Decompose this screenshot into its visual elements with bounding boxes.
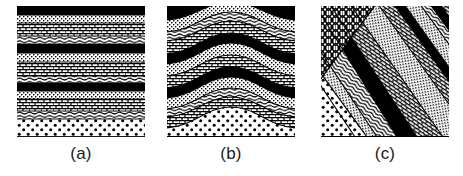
geological-cross-section-figure: (a) (b) (c)	[0, 0, 463, 176]
layer-wavy-1	[17, 36, 145, 44]
layer-wavy-3	[17, 111, 145, 119]
layer-stipple-3	[17, 91, 145, 99]
panel-c-svg	[321, 6, 449, 137]
panel-b-svg	[167, 6, 295, 137]
layer-brick-2	[17, 62, 145, 76]
layer-stipple-1	[17, 15, 145, 23]
panel-a-svg	[17, 6, 145, 137]
layer-stipple-2	[17, 53, 145, 62]
panel-a-layer-stack	[17, 6, 145, 137]
layer-wavy-2	[17, 76, 145, 83]
layer-black-shale-3	[17, 83, 145, 91]
caption-b: (b)	[167, 143, 295, 165]
caption-c: (c)	[321, 143, 449, 165]
layer-black-shale-1	[17, 6, 145, 15]
layer-brick-3	[17, 99, 145, 111]
panel-c-tilted-strata	[321, 6, 449, 137]
panel-b-folded-strata	[167, 6, 295, 137]
caption-a: (a)	[17, 143, 145, 165]
panel-a-horizontal-strata	[17, 6, 145, 137]
layer-brick-1	[17, 23, 145, 36]
layer-sandstone-dots	[17, 119, 145, 137]
layer-black-shale-2	[17, 44, 145, 53]
